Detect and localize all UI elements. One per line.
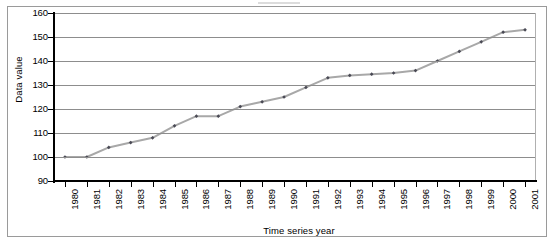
x-axis-tick-mark xyxy=(284,182,285,187)
x-axis-tick-label: 1998 xyxy=(463,189,474,210)
x-axis-tick-mark xyxy=(109,182,110,187)
x-axis-tick-mark xyxy=(503,182,504,187)
chart-screenshot: Data value 90100110120130140150160 19801… xyxy=(0,0,554,244)
x-axis-tick-mark xyxy=(394,182,395,187)
x-axis-tick-mark xyxy=(262,182,263,187)
x-axis-tick-label: 1982 xyxy=(113,189,124,210)
x-axis-tick-label: 1989 xyxy=(266,189,277,210)
x-axis-title-text: Time series year xyxy=(263,225,334,236)
x-axis-tick-mark xyxy=(328,182,329,187)
x-axis-tick-mark xyxy=(525,182,526,187)
x-axis-tick-label: 1997 xyxy=(441,189,452,210)
x-axis-tick-label: 1988 xyxy=(244,189,255,210)
x-axis-tick-mark xyxy=(350,182,351,187)
x-axis-tick-mark xyxy=(459,182,460,187)
x-axis-tick-mark xyxy=(437,182,438,187)
x-axis-tick-label: 2000 xyxy=(507,189,518,210)
x-axis-tick-mark xyxy=(481,182,482,187)
x-axis-tick-label: 1980 xyxy=(69,189,80,210)
x-axis-tick-mark xyxy=(65,182,66,187)
x-axis-tick-label: 2001 xyxy=(529,189,540,210)
x-axis-tick-mark xyxy=(87,182,88,187)
x-axis-tick-mark xyxy=(240,182,241,187)
x-axis-tick-mark xyxy=(218,182,219,187)
x-axis-tick-label: 1992 xyxy=(332,189,343,210)
x-axis-tick-mark xyxy=(131,182,132,187)
x-axis-tick-label: 1995 xyxy=(398,189,409,210)
x-axis-tick-mark xyxy=(372,182,373,187)
x-axis-tick-label: 1991 xyxy=(310,189,321,210)
x-axis-title: Time series year xyxy=(0,225,554,236)
x-axis-tick-label: 1994 xyxy=(376,189,387,210)
x-axis-tick-label: 1990 xyxy=(288,189,299,210)
x-axis-tick-label: 1985 xyxy=(179,189,190,210)
x-axis-tick-mark xyxy=(153,182,154,187)
x-axis-tick-label: 1984 xyxy=(157,189,168,210)
x-axis-tick-labels: 1980198119821983198419851986198719881989… xyxy=(0,0,554,244)
x-axis-tick-label: 1996 xyxy=(420,189,431,210)
x-axis-tick-label: 1983 xyxy=(135,189,146,210)
x-axis-tick-mark xyxy=(196,182,197,187)
x-axis-tick-mark xyxy=(306,182,307,187)
x-axis-tick-mark xyxy=(175,182,176,187)
x-axis-tick-label: 1981 xyxy=(91,189,102,210)
x-axis-tick-label: 1986 xyxy=(200,189,211,210)
x-axis-tick-mark xyxy=(416,182,417,187)
x-axis-tick-label: 1993 xyxy=(354,189,365,210)
x-axis-tick-label: 1999 xyxy=(485,189,496,210)
x-axis-tick-label: 1987 xyxy=(222,189,233,210)
